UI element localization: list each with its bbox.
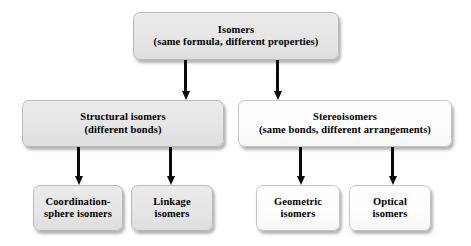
isomers-flowchart: Isomers (same formula, different propert… <box>0 0 471 246</box>
node-geometric-isomers: Geometric isomers <box>256 185 340 231</box>
arrow-stereoisomers-to-optical <box>391 147 394 177</box>
arrow-structural-to-coordination-sphere <box>77 147 80 177</box>
arrow-isomers-to-structural <box>184 60 187 92</box>
node-coordination-sphere-isomers: Coordination- sphere isomers <box>33 185 123 231</box>
node-optical-isomers-label: Optical isomers <box>350 196 430 221</box>
node-isomers-label: Isomers (same formula, different propert… <box>134 24 338 49</box>
node-stereoisomers-label: Stereoisomers (same bonds, different arr… <box>239 111 451 136</box>
node-linkage-isomers: Linkage isomers <box>131 185 213 231</box>
node-structural-isomers: Structural isomers (different bonds) <box>22 100 224 147</box>
node-stereoisomers: Stereoisomers (same bonds, different arr… <box>238 100 452 147</box>
node-linkage-isomers-label: Linkage isomers <box>132 196 212 221</box>
arrow-structural-to-linkage <box>169 147 172 177</box>
node-isomers: Isomers (same formula, different propert… <box>133 12 339 60</box>
node-geometric-isomers-label: Geometric isomers <box>257 196 339 221</box>
node-structural-isomers-label: Structural isomers (different bonds) <box>23 111 223 136</box>
node-optical-isomers: Optical isomers <box>349 185 431 231</box>
arrow-stereoisomers-to-geometric <box>299 147 302 177</box>
node-coordination-sphere-isomers-label: Coordination- sphere isomers <box>34 196 122 221</box>
arrow-isomers-to-stereoisomers <box>276 60 279 92</box>
